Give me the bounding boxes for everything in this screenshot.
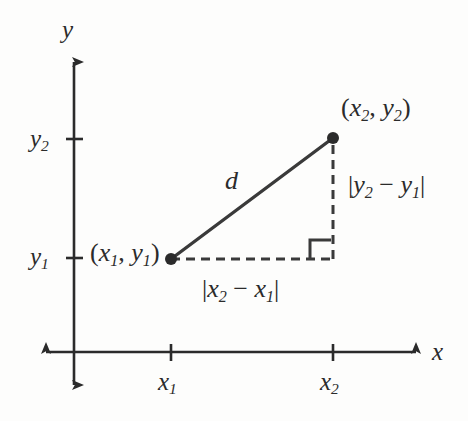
x-tick-label-x1: x1 (158, 369, 177, 394)
y-axis-label: y (62, 17, 73, 42)
point-1-marker (165, 253, 177, 265)
distance-formula-figure: y x y2 y1 x1 x2 (x2, y2) (x1, y1) d |x2 … (0, 0, 468, 421)
point-2-label: (x2, y2) (341, 95, 411, 121)
distance-label: d (225, 168, 238, 194)
right-angle-marker (310, 240, 331, 259)
y-tick-label-y2: y2 (30, 126, 49, 151)
x-tick-label-x2: x2 (320, 369, 339, 394)
delta-x-label: |x2 − x1| (202, 276, 279, 302)
point-2-marker (327, 132, 339, 144)
delta-y-label: |y2 − y1| (348, 172, 425, 198)
point-1-label: (x1, y1) (90, 240, 160, 266)
y-tick-label-y1: y1 (30, 244, 49, 269)
x-axis-label: x (432, 339, 443, 364)
coordinate-plane-graphic (0, 0, 468, 421)
